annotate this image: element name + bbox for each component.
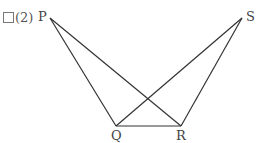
segment-sq — [116, 18, 242, 126]
point-label-r: R — [176, 128, 186, 143]
segment-sr — [181, 18, 242, 126]
point-label-q: Q — [111, 128, 122, 143]
point-label-p: P — [38, 9, 47, 24]
segment-pq — [50, 18, 116, 126]
point-label-s: S — [246, 9, 255, 24]
segment-pr — [50, 18, 181, 126]
